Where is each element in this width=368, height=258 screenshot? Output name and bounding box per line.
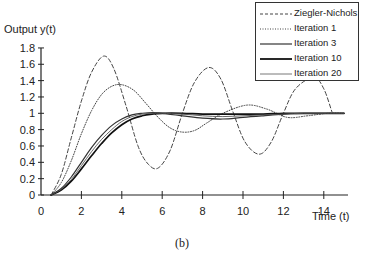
x-tick-label: 12 <box>277 205 289 217</box>
y-tick-label: 0.8 <box>20 124 35 136</box>
series-line-iteration-20 <box>51 113 344 195</box>
y-tick-label: 1.6 <box>20 58 35 70</box>
y-tick-label: 0 <box>29 189 35 201</box>
legend-item-iteration-10: Iteration 10 <box>260 52 358 66</box>
legend-item-iteration-20: Iteration 20 <box>260 67 358 81</box>
series-line-iteration-3 <box>51 113 344 196</box>
y-tick-label: 0.6 <box>20 140 35 152</box>
x-tick-label: 8 <box>200 205 206 217</box>
legend-item-ziegler-nichols: Ziegler-Nichols <box>260 7 358 21</box>
x-tick-label: 0 <box>38 205 44 217</box>
figure-caption: (b) <box>175 236 189 251</box>
dotted-line-swatch-icon <box>260 27 292 31</box>
bold-line-swatch-icon <box>260 57 292 61</box>
x-tick-label: 10 <box>237 205 249 217</box>
thin-line-swatch-icon <box>260 72 292 76</box>
y-tick-label: 0.2 <box>20 173 35 185</box>
solid-line-swatch-icon <box>260 42 292 46</box>
y-tick-label: 1 <box>29 107 35 119</box>
y-tick-label: 0.4 <box>20 156 35 168</box>
x-axis-label: Time (t) <box>312 210 349 222</box>
y-tick-label: 1.4 <box>20 75 35 87</box>
y-tick-label: 1.8 <box>20 42 35 54</box>
dashed-line-swatch-icon <box>260 12 292 16</box>
series-line-iteration-1 <box>51 84 344 195</box>
x-tick-label: 2 <box>78 205 84 217</box>
y-tick-label: 1.2 <box>20 91 35 103</box>
series-line-iteration-10 <box>51 113 344 195</box>
legend-item-iteration-3: Iteration 3 <box>260 37 358 51</box>
y-axis-label: Output y(t) <box>4 23 56 35</box>
x-tick-label: 4 <box>119 205 125 217</box>
legend-item-iteration-1: Iteration 1 <box>260 22 358 36</box>
legend: Ziegler-Nichols Iteration 1 Iteration 3 … <box>255 2 359 81</box>
x-tick-label: 6 <box>159 205 165 217</box>
